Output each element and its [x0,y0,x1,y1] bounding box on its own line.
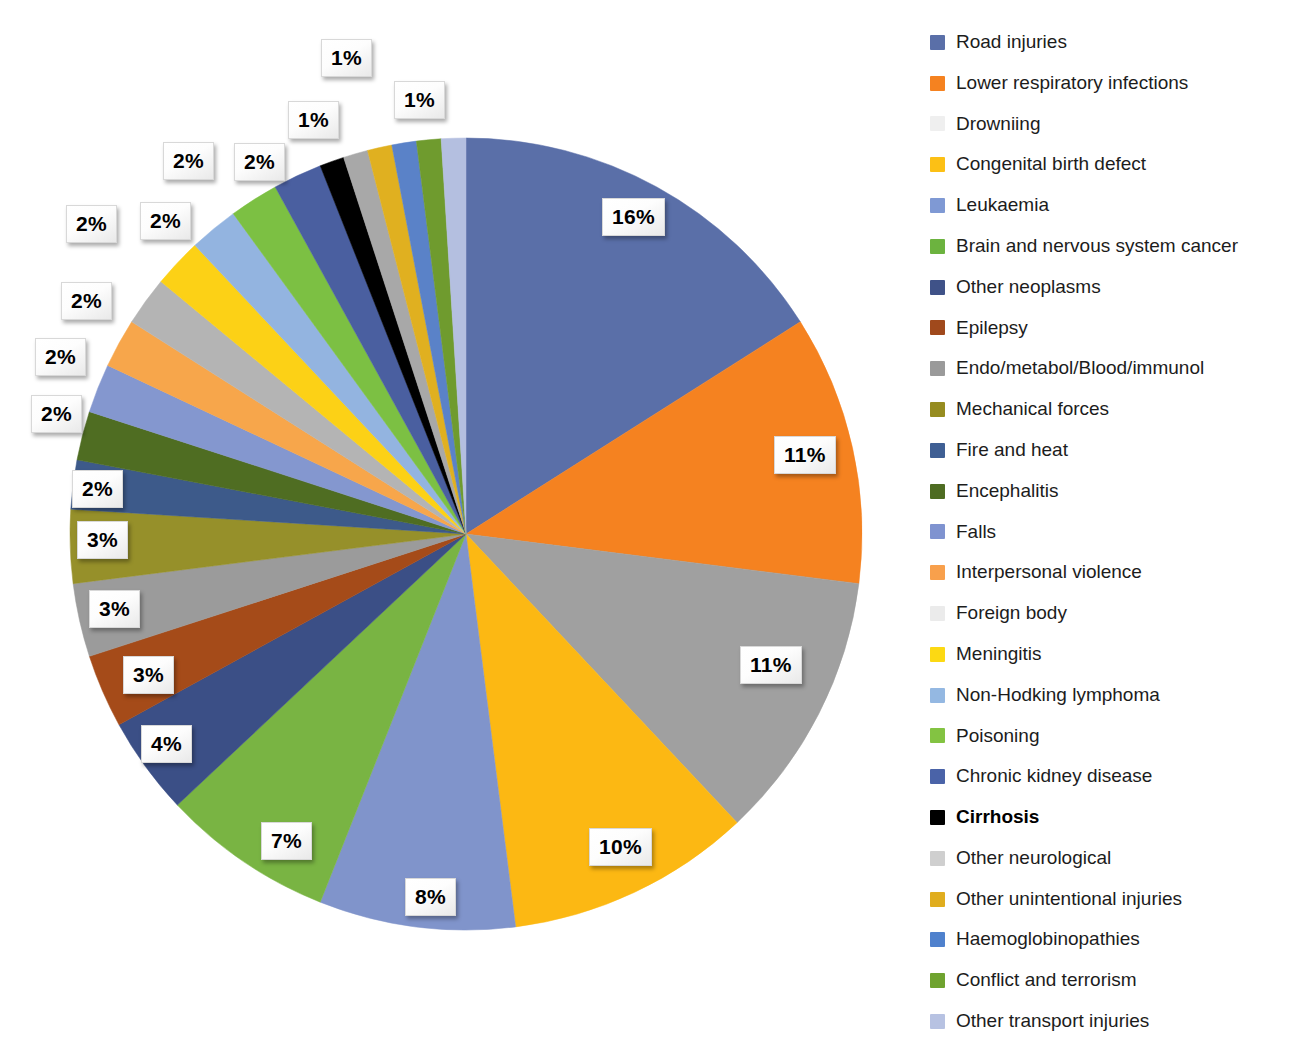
legend-item-label: Meningitis [956,644,1042,665]
legend-swatch-icon [930,280,945,295]
legend-item-label: Epilepsy [956,318,1028,339]
pie-plot-area: 16%11%11%10%8%7%4%3%3%3%2%2%2%2%2%2%2%2%… [0,0,920,1040]
pie-percent-label: 2% [234,143,285,181]
pie-percent-label: 11% [740,646,802,684]
legend-item-label: Mechanical forces [956,399,1109,420]
pie-percent-label: 8% [405,878,456,916]
pie-percent-label: 1% [321,39,372,77]
legend-swatch-icon [930,851,945,866]
legend-swatch-icon [930,198,945,213]
legend-swatch-icon [930,606,945,621]
pie-percent-label: 10% [589,828,652,866]
legend-item[interactable]: Cirrhosis [930,797,1296,838]
legend: Road injuriesLower respiratory infection… [930,22,1296,1040]
legend-item[interactable]: Road injuries [930,22,1296,63]
pie-percent-label: 7% [261,822,312,860]
legend-swatch-icon [930,688,945,703]
legend-item-label: Other transport injuries [956,1011,1149,1032]
legend-swatch-icon [930,320,945,335]
legend-item-label: Interpersonal violence [956,562,1142,583]
legend-swatch-icon [930,239,945,254]
legend-item-label: Leukaemia [956,195,1049,216]
pie-percent-label: 4% [141,725,192,763]
pie-percent-label: 2% [61,282,112,320]
legend-item-label: Other neoplasms [956,277,1101,298]
legend-item-label: Conflict and terrorism [956,970,1137,991]
legend-item[interactable]: Mechanical forces [930,389,1296,430]
legend-item-label: Drowniing [956,114,1040,135]
legend-swatch-icon [930,484,945,499]
legend-swatch-icon [930,973,945,988]
legend-swatch-icon [930,769,945,784]
legend-item[interactable]: Poisoning [930,716,1296,757]
legend-item-label: Congenital birth defect [956,154,1146,175]
legend-swatch-icon [930,647,945,662]
legend-swatch-icon [930,932,945,947]
legend-item-label: Chronic kidney disease [956,766,1152,787]
pie-percent-label: 11% [774,436,836,474]
pie-percent-label: 3% [123,656,174,694]
pie-percent-label: 2% [140,202,191,240]
legend-item[interactable]: Falls [930,512,1296,553]
legend-swatch-icon [930,892,945,907]
legend-swatch-icon [930,361,945,376]
pie-percent-label: 2% [163,142,214,180]
legend-item[interactable]: Foreign body [930,593,1296,634]
legend-item[interactable]: Other unintentional injuries [930,879,1296,920]
legend-item[interactable]: Non-Hodking lymphoma [930,675,1296,716]
legend-item[interactable]: Fire and heat [930,430,1296,471]
legend-item[interactable]: Epilepsy [930,308,1296,349]
legend-swatch-icon [930,565,945,580]
legend-swatch-icon [930,810,945,825]
pie-percent-label: 2% [35,338,86,376]
legend-swatch-icon [930,76,945,91]
pie-chart-figure: 16%11%11%10%8%7%4%3%3%3%2%2%2%2%2%2%2%2%… [0,0,1296,1040]
legend-swatch-icon [930,402,945,417]
legend-item[interactable]: Congenital birth defect [930,144,1296,185]
legend-item[interactable]: Endo/metabol/Blood/immunol [930,348,1296,389]
pie-percent-label: 3% [77,521,128,559]
legend-swatch-icon [930,728,945,743]
pie-percent-label: 3% [89,590,140,628]
legend-item[interactable]: Leukaemia [930,185,1296,226]
legend-swatch-icon [930,443,945,458]
legend-item[interactable]: Other transport injuries [930,1001,1296,1040]
pie-svg [0,0,920,1040]
legend-item[interactable]: Conflict and terrorism [930,960,1296,1001]
legend-item[interactable]: Lower respiratory infections [930,63,1296,104]
pie-percent-label: 2% [31,395,82,433]
legend-swatch-icon [930,35,945,50]
legend-item[interactable]: Chronic kidney disease [930,756,1296,797]
legend-swatch-icon [930,116,945,131]
legend-swatch-icon [930,157,945,172]
pie-percent-label: 16% [602,198,665,236]
legend-item[interactable]: Interpersonal violence [930,552,1296,593]
legend-item-label: Foreign body [956,603,1067,624]
legend-item[interactable]: Other neurological [930,838,1296,879]
legend-item-label: Falls [956,522,996,543]
legend-item-label: Other neurological [956,848,1111,869]
legend-item-label: Lower respiratory infections [956,73,1188,94]
pie-percent-label: 2% [72,470,123,508]
legend-item[interactable]: Drowniing [930,104,1296,145]
legend-item[interactable]: Other neoplasms [930,267,1296,308]
legend-item-label: Fire and heat [956,440,1068,461]
legend-item-label: Encephalitis [956,481,1058,502]
legend-item-label: Road injuries [956,32,1067,53]
legend-item-label: Cirrhosis [956,807,1039,828]
legend-item[interactable]: Haemoglobinopathies [930,920,1296,961]
pie-percent-label: 2% [66,205,117,243]
legend-item-label: Haemoglobinopathies [956,929,1140,950]
legend-item-label: Poisoning [956,726,1039,747]
legend-swatch-icon [930,524,945,539]
legend-item-label: Brain and nervous system cancer [956,236,1238,257]
legend-item-label: Endo/metabol/Blood/immunol [956,358,1204,379]
pie-percent-label: 1% [288,101,339,139]
legend-item[interactable]: Encephalitis [930,471,1296,512]
legend-item[interactable]: Brain and nervous system cancer [930,226,1296,267]
legend-item-label: Non-Hodking lymphoma [956,685,1160,706]
legend-swatch-icon [930,1014,945,1029]
legend-item[interactable]: Meningitis [930,634,1296,675]
pie-percent-label: 1% [394,81,445,119]
legend-item-label: Other unintentional injuries [956,889,1182,910]
